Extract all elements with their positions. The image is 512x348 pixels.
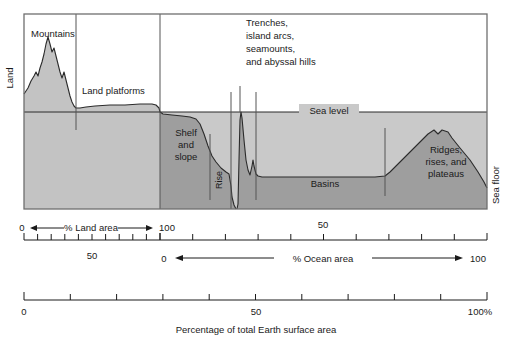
- label-shelf-line-1: Shelf: [175, 127, 197, 138]
- ocean-axis-title: % Ocean area: [293, 253, 354, 264]
- axis-label-sea-floor: Sea floor: [490, 166, 501, 204]
- label-shelf-line-2: and: [178, 139, 194, 150]
- label-ridges-line-3: plateaus: [428, 168, 464, 179]
- axis-label-land: Land: [4, 67, 15, 88]
- land-axis-end-label: 100: [159, 222, 175, 233]
- land-axis-start-label: 0: [19, 222, 24, 233]
- label-shelf-line-3: slope: [175, 151, 198, 162]
- ocean-axis-mid-label: 50: [318, 219, 329, 230]
- label-trenches-line-4: and abyssal hills: [246, 56, 316, 67]
- earth-axis-start-label: 0: [21, 306, 26, 317]
- label-mountains: Mountains: [31, 28, 75, 39]
- sea-level-label-group: Sea level: [299, 104, 359, 117]
- ocean-axis-end-label: 100: [470, 253, 486, 264]
- earth-axis-mid-label: 50: [251, 306, 262, 317]
- land-axis-title: % Land area: [64, 222, 119, 233]
- label-ridges-line-2: rises, and: [425, 156, 466, 167]
- label-ridges-line-1: Ridges,: [430, 144, 462, 155]
- ocean-axis-start-label: 0: [161, 253, 166, 264]
- label-trenches-line-3: seamounts,: [246, 43, 295, 54]
- label-trenches-line-1: Trenches,: [246, 17, 288, 28]
- label-trenches-line-2: island arcs,: [246, 30, 294, 41]
- hypsographic-diagram: Land Sea floor Mountains Land platforms …: [0, 0, 512, 348]
- label-rise: Rise: [214, 171, 224, 189]
- figure-caption: Percentage of total Earth surface area: [176, 324, 337, 335]
- label-ridges: Ridges, rises, and plateaus: [425, 144, 466, 179]
- earth-axis-end-label: 100%: [468, 306, 493, 317]
- label-land-platforms: Land platforms: [82, 85, 145, 96]
- label-basins: Basins: [311, 178, 340, 189]
- label-sea-level: Sea level: [309, 105, 348, 116]
- land-axis-mid-label: 50: [87, 250, 98, 261]
- figure-root: Land Sea floor Mountains Land platforms …: [0, 0, 512, 348]
